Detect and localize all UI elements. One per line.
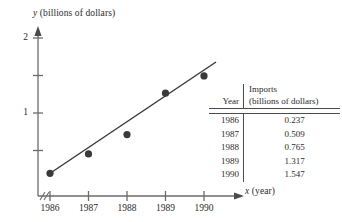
imports-data-table: Year Imports (billions of dollars) 1986 …: [209, 84, 340, 182]
trend-line: [49, 62, 216, 174]
table-cell-year: 1988: [209, 141, 244, 155]
table-cell-year: 1987: [209, 128, 244, 142]
x-tick-label-1986: 1986: [33, 203, 67, 213]
table-cell-imports: 0.237: [244, 114, 341, 128]
y-tick-label-1: 1: [14, 107, 28, 117]
x-axis-arrow: [234, 193, 244, 200]
table-cell-imports: 0.509: [244, 128, 341, 142]
data-point-1989: [162, 90, 169, 97]
table-row: 1988 0.765: [209, 141, 340, 155]
data-point-1986: [46, 170, 53, 177]
data-point-1990: [200, 72, 207, 79]
x-axis-units: (year): [249, 186, 275, 196]
table-header-imports-line1: Imports: [249, 84, 340, 96]
y-axis-arrow: [34, 26, 41, 36]
table-cell-imports: 1.317: [244, 155, 341, 169]
x-tick-label-1990: 1990: [187, 203, 221, 213]
x-axis-title: x (year): [245, 186, 275, 196]
chart-figure: y (billions of dollars) x (year) 2 1 198…: [0, 0, 342, 222]
x-tick-label-1989: 1989: [149, 203, 183, 213]
y-tick-label-2: 2: [14, 32, 28, 42]
table-row: 1986 0.237: [209, 114, 340, 128]
table-cell-year: 1989: [209, 155, 244, 169]
table-header-imports-line2: (billions of dollars): [249, 96, 319, 106]
x-tick-label-1988: 1988: [110, 203, 144, 213]
x-tick-label-1987: 1987: [72, 203, 106, 213]
y-axis-title: y (billions of dollars): [33, 8, 115, 18]
table-cell-year: 1986: [209, 114, 244, 128]
table-cell-imports: 1.547: [244, 168, 341, 182]
data-point-1988: [123, 131, 130, 138]
table-header-row: Year Imports (billions of dollars): [209, 84, 340, 109]
table-row: 1987 0.509: [209, 128, 340, 142]
table-row: 1990 1.547: [209, 168, 340, 182]
table-cell-imports: 0.765: [244, 141, 341, 155]
table-header-year: Year: [209, 84, 244, 109]
y-axis-units: (billions of dollars): [37, 8, 115, 18]
table-header-imports: Imports (billions of dollars): [244, 84, 341, 109]
table-row: 1989 1.317: [209, 155, 340, 169]
table-cell-year: 1990: [209, 168, 244, 182]
data-point-1987: [85, 150, 92, 157]
